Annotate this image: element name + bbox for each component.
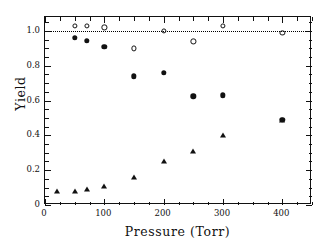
data-point-open-circle (280, 30, 285, 35)
y-axis-tick (306, 170, 312, 171)
x-axis-tick (149, 202, 150, 206)
y-axis-tick (309, 22, 313, 23)
y-axis-tick (309, 74, 313, 75)
data-point-open-circle (131, 46, 136, 51)
y-axis-tick (306, 66, 312, 67)
x-axis-tick (253, 202, 254, 206)
data-point-filled-triangle (279, 117, 285, 122)
x-axis-tick (119, 17, 120, 21)
x-axis-tick (297, 17, 298, 21)
y-axis-tick (309, 196, 313, 197)
x-axis-tick (238, 202, 239, 206)
y-axis-tick (45, 101, 51, 102)
y-axis-tick (45, 170, 51, 171)
y-axis-tick (309, 83, 313, 84)
data-point-filled-triangle (101, 183, 107, 188)
y-axis-tick (309, 161, 313, 162)
x-axis-tick (90, 202, 91, 206)
x-tick-label: 200 (155, 209, 171, 218)
data-point-filled-circle (191, 94, 196, 99)
x-tick-label: 400 (273, 209, 289, 218)
x-axis-tick (312, 17, 313, 21)
data-point-filled-circle (102, 44, 107, 49)
data-point-open-circle (102, 25, 107, 30)
y-axis-tick (309, 40, 313, 41)
y-axis-tick (45, 135, 51, 136)
y-axis-tick (45, 48, 49, 49)
data-point-filled-circle (84, 38, 89, 43)
x-axis-tick (253, 17, 254, 21)
y-axis-tick (45, 22, 49, 23)
data-point-open-circle (84, 23, 89, 28)
x-axis-tick (134, 202, 135, 206)
x-axis-tick (164, 199, 165, 205)
x-axis-tick (312, 202, 313, 206)
x-axis-tick (60, 202, 61, 206)
x-axis-tick (223, 199, 224, 205)
data-point-open-circle (220, 23, 225, 28)
x-axis-tick (193, 17, 194, 21)
x-axis-tick (104, 17, 105, 23)
y-axis-tick (309, 48, 313, 49)
y-axis-tick (309, 57, 313, 58)
data-point-filled-triangle (220, 133, 226, 138)
y-axis-tick (45, 31, 51, 32)
x-axis-tick (282, 17, 283, 23)
x-axis-tick (179, 17, 180, 21)
y-axis-tick (45, 118, 49, 119)
y-tick-label: 0.8 (16, 60, 40, 69)
y-tick-label: 1.0 (16, 26, 40, 35)
y-axis-tick (45, 109, 49, 110)
y-axis-tick (306, 101, 312, 102)
y-axis-tick (306, 31, 312, 32)
x-axis-tick (268, 202, 269, 206)
x-axis-tick (268, 17, 269, 21)
y-axis-tick (45, 196, 49, 197)
y-axis-tick (45, 83, 49, 84)
x-axis-tick (149, 17, 150, 21)
x-axis-tick (90, 17, 91, 21)
y-axis-tick (45, 74, 49, 75)
x-axis-tick (164, 17, 165, 23)
y-axis-tick (45, 92, 49, 93)
y-axis-tick (309, 153, 313, 154)
y-axis-tick (306, 135, 312, 136)
data-point-filled-triangle (161, 159, 167, 164)
y-axis-tick (309, 127, 313, 128)
y-axis-tick (309, 144, 313, 145)
data-point-filled-triangle (72, 189, 78, 194)
data-point-open-circle (191, 39, 196, 44)
y-axis-tick (45, 179, 49, 180)
data-point-filled-circle (131, 73, 136, 78)
y-axis-tick (309, 179, 313, 180)
x-axis-tick (60, 17, 61, 21)
x-tick-label: 0 (41, 209, 46, 218)
y-tick-label: 0 (16, 200, 40, 209)
x-axis-tick (282, 199, 283, 205)
y-axis-tick (309, 92, 313, 93)
data-point-filled-triangle (190, 149, 196, 154)
y-axis-tick (306, 205, 312, 206)
data-point-filled-triangle (84, 187, 90, 192)
y-axis-tick (45, 153, 49, 154)
y-tick-label: 0.6 (16, 95, 40, 104)
data-point-filled-circle (220, 93, 225, 98)
data-point-filled-triangle (131, 175, 137, 180)
y-axis-tick (309, 109, 313, 110)
x-axis-tick (134, 17, 135, 21)
y-axis-tick (45, 40, 49, 41)
data-point-filled-circle (161, 70, 166, 75)
y-axis-tick (45, 57, 49, 58)
data-point-open-circle (161, 28, 166, 33)
y-axis-tick (45, 144, 49, 145)
x-axis-tick (208, 17, 209, 21)
x-tick-label: 100 (95, 209, 111, 218)
data-point-filled-circle (72, 35, 77, 40)
plot-area (44, 16, 311, 204)
y-axis-tick (45, 127, 49, 128)
chart-figure: Yield Pressure (Torr) 0100200300400 00.2… (0, 0, 326, 247)
x-axis-title: Pressure (Torr) (44, 224, 311, 239)
x-axis-tick (104, 199, 105, 205)
x-axis-tick (119, 202, 120, 206)
data-point-filled-triangle (54, 189, 60, 194)
